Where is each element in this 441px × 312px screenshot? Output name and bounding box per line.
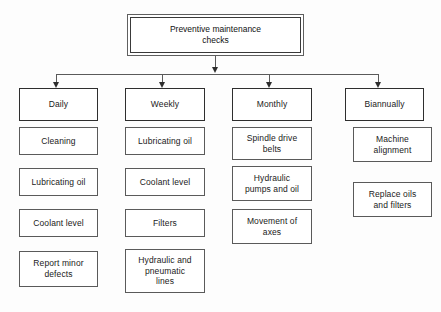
node-weekly-item-2-label: Coolant level bbox=[140, 177, 190, 188]
node-biannually-item-2-label: Replace oils and filters bbox=[369, 189, 417, 211]
arrowhead-root-stem-icon bbox=[212, 67, 218, 73]
node-weekly-item-3-label: Filters bbox=[153, 218, 177, 229]
node-daily-item-3-label: Coolant level bbox=[33, 218, 83, 229]
node-monthly-item-1-label: Spindle drive belts bbox=[247, 133, 297, 155]
node-daily-item-4-label: Report minor defects bbox=[33, 258, 83, 280]
connector-bus bbox=[56, 74, 378, 75]
node-monthly-item-3-label: Movement of axes bbox=[247, 216, 297, 238]
column-header-weekly[interactable]: Weekly bbox=[125, 88, 205, 121]
node-daily-item-3[interactable]: Coolant level bbox=[19, 209, 98, 237]
node-daily-item-4[interactable]: Report minor defects bbox=[19, 251, 98, 287]
column-header-biannually[interactable]: Biannually bbox=[345, 88, 424, 121]
root-node-preventive-maintenance-checks[interactable]: Preventive maintenance checks bbox=[127, 14, 304, 56]
node-weekly-item-4[interactable]: Hydraulic and pneumatic lines bbox=[125, 249, 205, 293]
node-daily-item-1[interactable]: Cleaning bbox=[19, 127, 98, 155]
node-monthly-item-2-label: Hydraulic pumps and oil bbox=[245, 173, 299, 195]
column-header-monthly[interactable]: Monthly bbox=[232, 88, 312, 121]
node-weekly-item-4-label: Hydraulic and pneumatic lines bbox=[138, 255, 191, 288]
node-monthly-item-1[interactable]: Spindle drive belts bbox=[232, 127, 312, 160]
node-biannually-item-2[interactable]: Replace oils and filters bbox=[353, 182, 432, 217]
node-monthly-item-3[interactable]: Movement of axes bbox=[232, 209, 312, 244]
column-header-monthly-label: Monthly bbox=[257, 99, 287, 110]
node-daily-item-2[interactable]: Lubricating oil bbox=[19, 168, 98, 196]
node-daily-item-1-label: Cleaning bbox=[41, 136, 75, 147]
column-header-weekly-label: Weekly bbox=[151, 99, 179, 110]
node-monthly-item-2[interactable]: Hydraulic pumps and oil bbox=[232, 166, 312, 201]
column-header-biannually-label: Biannually bbox=[364, 99, 404, 110]
node-daily-item-2-label: Lubricating oil bbox=[32, 177, 86, 188]
root-node-label: Preventive maintenance checks bbox=[130, 17, 301, 53]
node-weekly-item-3[interactable]: Filters bbox=[125, 209, 205, 237]
column-header-daily[interactable]: Daily bbox=[19, 88, 98, 121]
node-biannually-item-1[interactable]: Machine alignment bbox=[353, 127, 432, 162]
node-weekly-item-2[interactable]: Coolant level bbox=[125, 168, 205, 196]
diagram-canvas: Preventive maintenance checks Daily Clea… bbox=[0, 0, 441, 312]
node-weekly-item-1-label: Lubricating oil bbox=[138, 136, 192, 147]
column-header-daily-label: Daily bbox=[49, 99, 68, 110]
node-weekly-item-1[interactable]: Lubricating oil bbox=[125, 127, 205, 155]
node-biannually-item-1-label: Machine alignment bbox=[374, 134, 412, 156]
